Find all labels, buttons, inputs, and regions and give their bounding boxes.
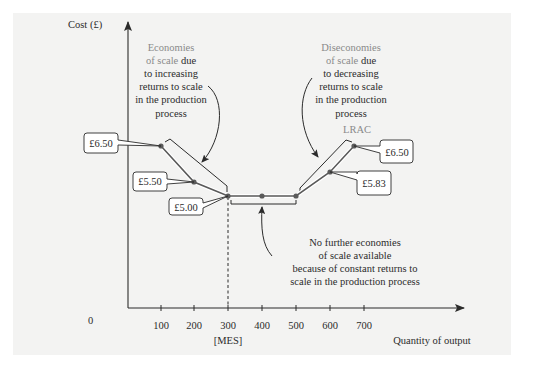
x-axis-label: Quantity of output <box>393 335 471 346</box>
lrac-curve <box>158 143 356 198</box>
x-tick-label: 600 <box>322 320 338 331</box>
svg-text:£6.50: £6.50 <box>89 138 113 149</box>
svg-text:No further economies: No further economies <box>309 237 401 248</box>
x-tick-label: 500 <box>288 320 304 331</box>
x-tick-label: 200 <box>186 320 202 331</box>
value-callout: £6.50 <box>84 133 161 153</box>
x-tick-label: 400 <box>254 320 270 331</box>
x-tick-label: 100 <box>153 320 169 331</box>
mes-label: [MES] <box>214 335 243 346</box>
value-callout: £5.83 <box>330 171 391 195</box>
x-tick-label: 700 <box>356 320 372 331</box>
svg-text:in the production: in the production <box>135 94 207 105</box>
x-tick-label: 300 <box>220 320 236 331</box>
svg-text:because of constant returns to: because of constant returns to <box>293 263 418 274</box>
constant-arrow <box>262 207 272 256</box>
svg-text:process: process <box>155 108 187 119</box>
svg-text:returns to scale: returns to scale <box>319 81 383 92</box>
svg-text:scale in the production proces: scale in the production process <box>290 276 419 287</box>
svg-text:returns to scale: returns to scale <box>139 81 203 92</box>
lrac-diagram: Cost (£) 0 100 200 300 400 500 600 700 [… <box>0 0 548 379</box>
value-callout: £5.00 <box>169 196 228 215</box>
svg-text:£6.50: £6.50 <box>385 147 409 158</box>
svg-text:of scale due: of scale due <box>326 55 376 66</box>
svg-text:of scale due: of scale due <box>146 55 196 66</box>
diseconomies-arrow <box>302 78 318 157</box>
value-callout: £6.50 <box>354 140 413 163</box>
svg-text:process: process <box>335 108 367 119</box>
y-axis-label: Cost (£) <box>68 19 103 31</box>
lrac-label: LRAC <box>343 124 371 135</box>
svg-text:Diseconomies: Diseconomies <box>321 42 381 53</box>
svg-text:£5.83: £5.83 <box>362 178 386 189</box>
diseconomies-annotation: Diseconomies of scale due to decreasing … <box>302 42 387 157</box>
svg-text:£5.50: £5.50 <box>138 176 162 187</box>
origin-label: 0 <box>88 315 93 326</box>
svg-text:in the production: in the production <box>315 94 387 105</box>
constant-returns-annotation: No further economies of scale available … <box>262 207 420 287</box>
svg-text:to decreasing: to decreasing <box>323 68 379 79</box>
svg-text:Economies: Economies <box>148 42 195 53</box>
svg-text:of scale available: of scale available <box>319 250 392 261</box>
svg-text:£5.00: £5.00 <box>174 202 198 213</box>
svg-text:to increasing: to increasing <box>144 68 199 79</box>
